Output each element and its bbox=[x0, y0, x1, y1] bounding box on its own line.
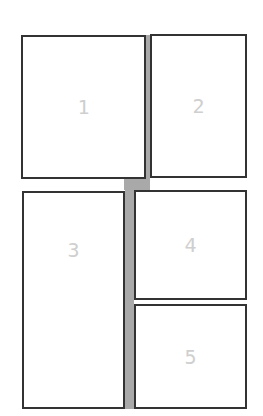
panel-5: 5 bbox=[134, 304, 247, 409]
panel-3: 3 bbox=[22, 191, 125, 409]
gutter-vertical bbox=[125, 176, 134, 409]
panel-4: 4 bbox=[134, 190, 247, 300]
panel-2: 2 bbox=[150, 34, 247, 178]
panel-label: 2 bbox=[192, 94, 204, 118]
panel-label: 1 bbox=[77, 95, 89, 119]
panel-label: 5 bbox=[184, 345, 196, 369]
panel-1: 1 bbox=[21, 35, 146, 179]
panel-label: 3 bbox=[67, 238, 79, 262]
panel-label: 4 bbox=[184, 233, 196, 257]
